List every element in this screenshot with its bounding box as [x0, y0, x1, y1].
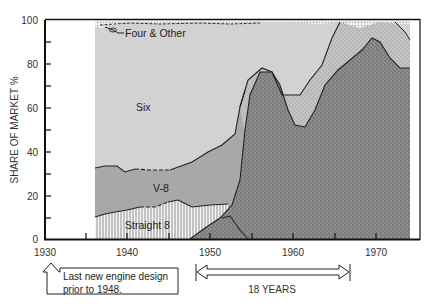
span-label: 18 YEARS	[248, 284, 296, 295]
y-tick-0: 0	[32, 234, 38, 245]
x-tick-1940: 1940	[116, 247, 139, 258]
x-tick-1970: 1970	[365, 247, 388, 258]
eighteen-years-arrow	[196, 264, 350, 281]
annotation-line-1: Last new engine design	[63, 270, 168, 283]
y-tick-40: 40	[27, 147, 39, 158]
y-tick-100: 100	[21, 15, 38, 26]
y-tick-60: 60	[27, 103, 39, 114]
label-straight8: Straight 8	[125, 219, 170, 231]
annotation-line-2: prior to 1948.	[63, 283, 168, 296]
y-axis-title: SHARE OF MARKET %	[9, 76, 20, 183]
label-six: Six	[136, 101, 151, 113]
y-tick-80: 80	[27, 59, 39, 70]
y-tick-20: 20	[27, 191, 39, 202]
market-share-chart: 100 80 60 40 20 0 1930 1940 1950 1960 19…	[0, 0, 440, 306]
label-four-other: Four & Other	[125, 27, 186, 39]
annotation-note: Last new engine design prior to 1948.	[63, 270, 168, 296]
x-tick-1930: 1930	[34, 247, 57, 258]
x-tick-1960: 1960	[282, 247, 305, 258]
x-tick-1950: 1950	[199, 247, 222, 258]
label-v8: V-8	[153, 182, 169, 194]
